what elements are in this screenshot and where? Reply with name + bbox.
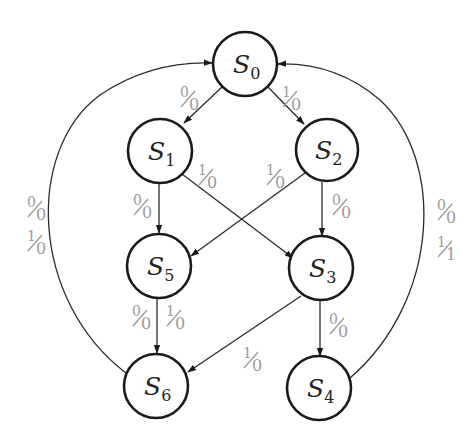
svg-text:0: 0 bbox=[27, 194, 36, 210]
svg-text:0: 0 bbox=[36, 239, 46, 258]
transitions bbox=[48, 63, 424, 378]
label-s5-s6-b: 1 0 bbox=[166, 303, 185, 333]
svg-text:0: 0 bbox=[291, 95, 301, 114]
edge-s6-s0-arc bbox=[48, 63, 212, 373]
label-s4-s0-b: 1 1 bbox=[437, 234, 456, 264]
svg-text:0: 0 bbox=[437, 197, 446, 213]
state-s3: S3 bbox=[289, 236, 353, 300]
svg-text:0: 0 bbox=[142, 203, 152, 222]
svg-text:1: 1 bbox=[27, 228, 36, 244]
state-diagram: S0 S1 S2 S5 S3 S6 S4 0 0 1 0 0 0 1 bbox=[0, 0, 475, 438]
svg-text:1: 1 bbox=[243, 345, 252, 361]
label-s1-s5: 0 0 bbox=[133, 192, 152, 222]
svg-text:0: 0 bbox=[132, 303, 141, 319]
svg-text:0: 0 bbox=[207, 173, 217, 192]
svg-text:0: 0 bbox=[189, 95, 199, 114]
svg-text:0: 0 bbox=[275, 173, 285, 192]
state-s6: S6 bbox=[124, 354, 188, 418]
label-s2-s3: 0 0 bbox=[332, 192, 351, 222]
svg-text:0: 0 bbox=[446, 208, 456, 227]
svg-text:0: 0 bbox=[332, 192, 341, 208]
svg-text:1: 1 bbox=[166, 303, 175, 319]
label-s5-s6-a: 0 0 bbox=[132, 303, 151, 333]
svg-text:1: 1 bbox=[198, 162, 207, 178]
svg-text:1: 1 bbox=[266, 162, 275, 178]
label-s6-s0-b: 1 0 bbox=[27, 228, 46, 258]
state-s2: S2 bbox=[296, 119, 358, 181]
state-s4: S4 bbox=[287, 356, 351, 420]
svg-text:1: 1 bbox=[446, 245, 456, 264]
label-s2-s5: 1 0 bbox=[266, 162, 285, 192]
svg-text:0: 0 bbox=[252, 356, 262, 375]
label-s3-s4: 0 0 bbox=[329, 311, 348, 341]
state-s1: S1 bbox=[128, 119, 192, 183]
svg-text:0: 0 bbox=[329, 311, 338, 327]
svg-text:0: 0 bbox=[341, 203, 351, 222]
label-s4-s0-a: 0 0 bbox=[437, 197, 456, 227]
svg-text:0: 0 bbox=[141, 314, 151, 333]
svg-text:0: 0 bbox=[36, 205, 46, 224]
label-s0-s1: 0 0 bbox=[180, 84, 199, 114]
svg-text:0: 0 bbox=[133, 192, 142, 208]
state-s0: S0 bbox=[213, 32, 277, 96]
svg-text:0: 0 bbox=[180, 84, 189, 100]
svg-text:0: 0 bbox=[175, 314, 185, 333]
label-s0-s2: 1 0 bbox=[282, 84, 301, 114]
svg-text:0: 0 bbox=[338, 322, 348, 341]
svg-text:1: 1 bbox=[282, 84, 291, 100]
label-s3-s6: 1 0 bbox=[243, 345, 262, 375]
state-s5: S5 bbox=[127, 234, 191, 298]
svg-text:1: 1 bbox=[437, 234, 446, 250]
label-s6-s0-a: 0 0 bbox=[27, 194, 46, 224]
